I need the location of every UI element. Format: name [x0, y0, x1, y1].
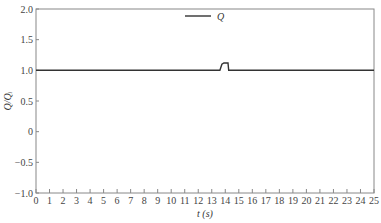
x-tick-label: 22 — [328, 195, 338, 206]
x-tick-label: 2 — [61, 195, 66, 206]
x-tick-label: 6 — [115, 195, 120, 206]
y-axis-label: Q/Qᵢ — [2, 91, 13, 110]
x-tick-label: 21 — [315, 195, 325, 206]
x-tick-label: 20 — [301, 195, 311, 206]
x-tick-label: 11 — [180, 195, 190, 206]
x-tick-label: 5 — [101, 195, 106, 206]
y-tick-label: 2.0 — [21, 4, 34, 15]
x-tick-label: 15 — [234, 195, 244, 206]
y-tick-label: 0 — [28, 126, 33, 137]
x-tick-label: 9 — [155, 195, 160, 206]
x-tick-label: 4 — [88, 195, 93, 206]
x-tick-label: 13 — [207, 195, 217, 206]
x-tick-label: 24 — [355, 195, 365, 206]
y-tick-label: −1.0 — [15, 188, 33, 199]
x-tick-label: 12 — [193, 195, 203, 206]
series-line-q — [36, 63, 374, 70]
x-tick-label: 18 — [274, 195, 284, 206]
x-tick-label: 25 — [369, 195, 379, 206]
x-tick-label: 8 — [142, 195, 147, 206]
y-tick-label: −0.5 — [15, 157, 33, 168]
x-tick-label: 19 — [288, 195, 298, 206]
legend-label: Q — [217, 11, 225, 22]
x-tick-label: 3 — [74, 195, 79, 206]
x-tick-label: 23 — [342, 195, 352, 206]
x-tick-label: 16 — [247, 195, 257, 206]
plot-frame — [36, 9, 374, 193]
x-tick-label: 1 — [47, 195, 52, 206]
y-tick-label: 0.5 — [21, 96, 34, 107]
x-tick-label: 0 — [34, 195, 39, 206]
line-chart: 2.01.51.00.50−0.5−1.00123456789101112131… — [0, 0, 381, 223]
x-tick-label: 14 — [220, 195, 230, 206]
x-tick-label: 10 — [166, 195, 176, 206]
x-tick-label: 17 — [261, 195, 271, 206]
x-axis-label: t (s) — [197, 208, 214, 220]
y-tick-label: 1.0 — [21, 65, 34, 76]
y-tick-label: 1.5 — [21, 34, 34, 45]
x-tick-label: 7 — [128, 195, 133, 206]
